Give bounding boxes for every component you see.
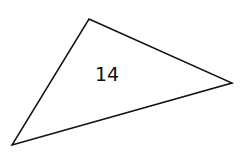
triangle-area-label: 14 — [95, 65, 119, 84]
diagram-svg — [0, 0, 242, 155]
triangle-shape — [12, 19, 232, 145]
diagram-canvas: 14 — [0, 0, 242, 155]
